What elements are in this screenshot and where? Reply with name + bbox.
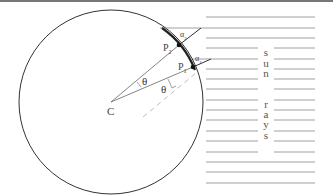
theta-label-1: θ	[142, 76, 147, 87]
theta-label-2: θ	[161, 84, 166, 95]
p2-label: P2	[163, 42, 172, 58]
alpha2-label: α2	[180, 29, 187, 44]
diagram-canvas	[0, 0, 333, 196]
right-angle-marker	[168, 79, 176, 88]
dashed-ray	[143, 73, 196, 117]
sun-letter: n	[261, 68, 271, 79]
rays-letter: s	[261, 130, 271, 141]
alpha1-label: α1	[195, 53, 202, 68]
p1-label: P1	[178, 61, 187, 77]
center-label: C	[107, 106, 114, 117]
